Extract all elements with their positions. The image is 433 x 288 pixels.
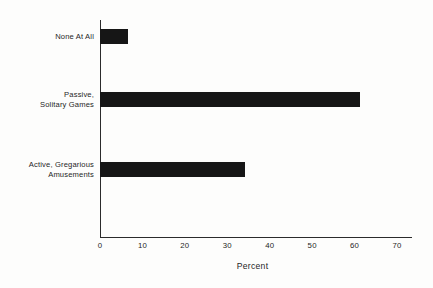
bar-chart: None At All Passive, Solitary Games Acti… [0,0,433,288]
bar-passive-solitary-games [100,92,360,107]
x-tick-label: 50 [308,241,317,250]
category-label-passive-solitary-games: Passive, Solitary Games [40,90,94,109]
x-tick-label: 10 [138,241,147,250]
x-axis-line [100,237,412,238]
bar-none-at-all [100,29,128,44]
x-axis-title: Percent [0,261,433,271]
x-tick-label: 0 [98,241,103,250]
category-label-active-gregarious-amusements: Active, Gregarious Amusements [29,160,94,179]
bar-active-gregarious-amusements [100,162,245,177]
x-tick-label: 20 [180,241,189,250]
y-axis-line [100,20,101,238]
category-label-none-at-all: None At All [55,32,94,42]
x-tick-label: 30 [223,241,232,250]
x-tick-label: 70 [392,241,401,250]
x-axis-title-text: Percent [237,261,269,271]
x-tick-label: 60 [350,241,359,250]
x-tick-label: 40 [265,241,274,250]
